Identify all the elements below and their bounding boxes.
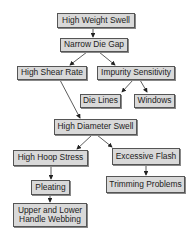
edge-shear-to-diameter [60,80,80,118]
edge-gap-to-impurity [99,52,115,65]
node-high-hoop-stress: High Hoop Stress [13,150,88,166]
edge-impurity-to-dielines [122,80,133,92]
node-excessive-flash: Excessive Flash [112,148,180,165]
edge-impurity-to-windows [140,80,147,92]
edge-diameter-to-hoop [77,135,92,149]
edge-layer [0,0,193,235]
edge-gap-to-shear [70,52,87,65]
node-narrow-die-gap: Narrow Die Gap [60,38,128,52]
node-pleating: Pleating [31,180,70,195]
edge-diameter-to-flash [97,135,112,147]
node-windows: Windows [134,94,175,108]
node-high-shear-rate: High Shear Rate [17,66,87,80]
node-die-lines: Die Lines [80,94,121,108]
node-trimming-problems: Trimming Problems [106,176,185,193]
node-high-weight-swell: High Weight Swell [57,13,135,28]
node-high-diameter-swell: High Diameter Swell [54,119,137,135]
node-handle-webbing: Upper and Lower Handle Webbing [13,203,87,227]
node-impurity-sensitivity: Impurity Sensitivity [97,66,175,80]
